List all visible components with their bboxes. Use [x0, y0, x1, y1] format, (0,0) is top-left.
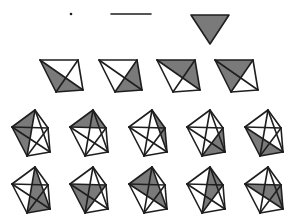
graph-edge: [78, 60, 83, 90]
graph-edge: [70, 184, 106, 185]
k5-figure-7: [70, 167, 108, 213]
graph-edge: [231, 90, 258, 92]
graph-edge: [187, 167, 210, 184]
graph-edge: [268, 110, 281, 128]
k5-figure-9: [187, 167, 225, 213]
graph-edge: [129, 110, 152, 127]
graph-edge: [129, 184, 165, 185]
rows-k5-triangles: [12, 110, 283, 213]
k5-figure-2: [70, 110, 108, 156]
graph-edge: [253, 60, 258, 90]
graph-edge: [173, 90, 200, 92]
graph-edge: [35, 110, 48, 128]
graph-edge: [12, 127, 48, 128]
k5-figure-3: [129, 110, 167, 156]
graph-edge: [187, 127, 223, 128]
graph-edge: [245, 184, 281, 185]
shaded-triangle: [70, 110, 106, 128]
graph-edge: [245, 167, 268, 184]
k4-figure-3: [157, 60, 200, 92]
graph-edge: [70, 127, 106, 128]
graph-edge: [187, 110, 210, 127]
graph-edge: [129, 127, 165, 128]
k5-figure-10: [245, 167, 283, 213]
k4-figure-4: [215, 60, 258, 92]
row-basic-simplices: [70, 13, 229, 44]
triangle-2-simplex: [191, 15, 229, 44]
k5-figure-4: [187, 110, 225, 156]
k4-figure-2: [99, 60, 142, 92]
graph-edge: [70, 167, 93, 184]
graph-edge: [210, 110, 223, 128]
simplicial-complex-diagram: [0, 0, 298, 222]
graph-edge: [245, 127, 281, 128]
k5-figure-6: [12, 167, 50, 213]
k5-figure-8: [129, 167, 167, 213]
k5-figure-1: [12, 110, 50, 156]
vertex-0-simplex: [70, 13, 73, 16]
graph-edge: [93, 167, 106, 185]
graph-edge: [245, 110, 268, 127]
graph-edge: [144, 110, 152, 156]
row-k4-triangles: [40, 60, 258, 92]
graph-edge: [268, 167, 281, 185]
k5-figure-5: [245, 110, 283, 156]
graph-edge: [187, 184, 223, 185]
graph-edge: [12, 167, 35, 184]
graph-edge: [12, 184, 48, 185]
k4-figure-1: [40, 60, 83, 92]
